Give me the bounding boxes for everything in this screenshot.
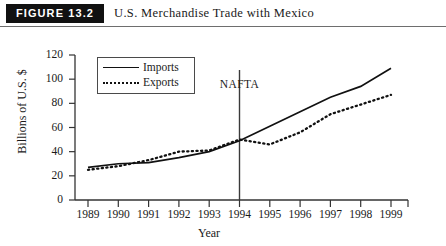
header-divider xyxy=(0,26,446,27)
legend-label-imports: Imports xyxy=(143,61,179,73)
figure-number-tag: FIGURE 13.2 xyxy=(6,4,104,23)
chart-container: 020406080100120 198919901991199219931994… xyxy=(0,30,446,246)
y-axis-title: Billions of U.S. $ xyxy=(15,52,30,172)
legend-swatch-solid-icon xyxy=(103,67,139,68)
figure-title: U.S. Merchandise Trade with Mexico xyxy=(114,6,314,21)
y-tick-label: 0 xyxy=(33,193,63,205)
legend-item-exports: Exports xyxy=(98,75,194,91)
y-tick-label: 120 xyxy=(33,48,63,60)
figure-page: FIGURE 13.2 U.S. Merchandise Trade with … xyxy=(0,0,446,246)
y-tick-label: 80 xyxy=(33,96,63,108)
chart-legend: Imports Exports xyxy=(97,57,195,94)
figure-header: FIGURE 13.2 U.S. Merchandise Trade with … xyxy=(0,4,446,26)
legend-label-exports: Exports xyxy=(143,76,179,88)
y-axis-ticks xyxy=(69,55,75,200)
y-tick-label: 60 xyxy=(33,121,63,133)
legend-item-imports: Imports xyxy=(98,60,194,76)
x-axis-title: Year xyxy=(198,226,220,241)
y-tick-label: 20 xyxy=(33,169,63,181)
x-axis-ticks xyxy=(88,200,408,207)
nafta-annotation-label: NAFTA xyxy=(215,78,265,90)
legend-swatch-dotted-icon xyxy=(103,82,139,84)
y-tick-label: 40 xyxy=(33,145,63,157)
x-tick-label: 1999 xyxy=(371,208,411,220)
y-tick-label: 100 xyxy=(33,72,63,84)
